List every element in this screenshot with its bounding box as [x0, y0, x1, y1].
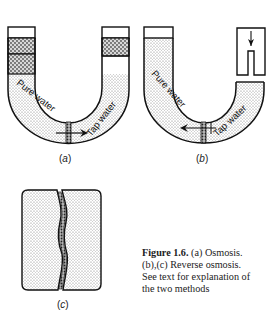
panel-label-b: (b): [196, 153, 208, 164]
caption-line-2: (b),(c) Reverse osmosis.: [142, 259, 274, 271]
panel-a-osmosis: Pure water Tap water (a): [8, 27, 129, 164]
panel-b-reverse-osmosis: Pure water Tap water (b): [144, 27, 265, 164]
panel-label-c: (c): [57, 299, 69, 310]
panel-c-reverse-osmosis-cell: (c): [22, 190, 101, 310]
caption-line-1: Figure 1.6. (a) Osmosis.: [142, 247, 274, 259]
caption-line-3: See text for explanation of: [142, 271, 274, 283]
figure-number: Figure 1.6.: [142, 247, 189, 258]
piston-icon: [237, 28, 265, 75]
figure-caption: Figure 1.6. (a) Osmosis. (b),(c) Reverse…: [142, 247, 274, 295]
membrane-b-icon: [201, 122, 206, 143]
caption-line-4: the two methods: [142, 283, 274, 295]
panel-label-a: (a): [59, 153, 71, 164]
